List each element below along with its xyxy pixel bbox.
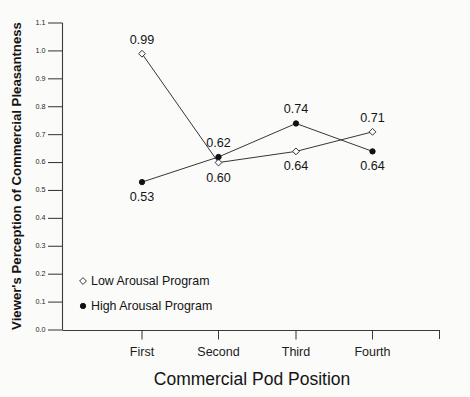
- data-point-label: 0.99: [130, 33, 155, 47]
- series-line: [142, 123, 373, 182]
- y-tick-label: 0.0: [36, 325, 46, 334]
- data-point-label: 0.62: [206, 136, 231, 150]
- series-high-arousal: 0.530.620.740.64: [130, 102, 385, 204]
- legend-open-diamond-icon: [80, 278, 87, 285]
- x-axis-title: Commercial Pod Position: [154, 369, 350, 389]
- data-point-marker: [293, 148, 300, 155]
- legend-filled-circle-icon: [80, 303, 85, 308]
- x-axis-ticks: FirstSecondThirdFourth: [130, 331, 391, 359]
- data-point-label: 0.64: [284, 159, 309, 173]
- data-point-marker: [139, 179, 144, 184]
- data-point-marker: [370, 149, 375, 154]
- y-tick-label: 0.1: [36, 297, 46, 306]
- y-tick-label: 1.1: [36, 18, 46, 27]
- line-chart: 0.00.10.20.30.40.50.60.70.80.91.01.1 Vie…: [0, 0, 470, 397]
- data-point-marker: [216, 154, 221, 159]
- y-tick-label: 0.9: [36, 74, 46, 83]
- legend-label: High Arousal Program: [91, 299, 212, 313]
- y-tick-label: 0.8: [36, 102, 46, 111]
- legend-item: High Arousal Program: [80, 299, 212, 313]
- chart-legend: Low Arousal ProgramHigh Arousal Program: [80, 274, 213, 313]
- y-tick-label: 1.0: [36, 46, 46, 55]
- series-low-arousal: 0.990.600.640.71: [130, 33, 385, 185]
- data-point-label: 0.53: [130, 190, 155, 204]
- data-point-marker: [215, 159, 222, 166]
- x-axis: FirstSecondThirdFourth Commercial Pod Po…: [63, 331, 441, 390]
- chart-container: 0.00.10.20.30.40.50.60.70.80.91.01.1 Vie…: [0, 0, 470, 397]
- y-axis-title: Viewer's Perception of Commercial Pleasa…: [9, 22, 24, 330]
- y-tick-label: 0.4: [36, 213, 46, 222]
- series-line: [142, 54, 373, 163]
- data-point-marker: [369, 128, 376, 135]
- x-tick-label: First: [130, 345, 155, 359]
- legend-label: Low Arousal Program: [91, 274, 209, 288]
- y-axis-ticks: 0.00.10.20.30.40.50.60.70.80.91.01.1: [36, 18, 63, 334]
- y-tick-label: 0.7: [36, 130, 46, 139]
- data-point-label: 0.64: [360, 159, 385, 173]
- data-point-label: 0.74: [284, 102, 309, 116]
- data-point-label: 0.60: [206, 171, 231, 185]
- y-tick-label: 0.6: [36, 157, 46, 166]
- y-tick-label: 0.2: [36, 269, 46, 278]
- data-series-group: 0.990.600.640.710.530.620.740.64: [130, 33, 385, 204]
- x-tick-label: Fourth: [354, 345, 390, 359]
- y-axis: 0.00.10.20.30.40.50.60.70.80.91.01.1 Vie…: [9, 18, 63, 334]
- legend-item: Low Arousal Program: [80, 274, 210, 288]
- data-point-label: 0.71: [360, 111, 385, 125]
- y-tick-label: 0.5: [36, 185, 46, 194]
- data-point-marker: [139, 50, 146, 57]
- x-tick-label: Second: [197, 345, 239, 359]
- data-point-marker: [293, 121, 298, 126]
- x-tick-label: Third: [282, 345, 311, 359]
- y-tick-label: 0.3: [36, 241, 46, 250]
